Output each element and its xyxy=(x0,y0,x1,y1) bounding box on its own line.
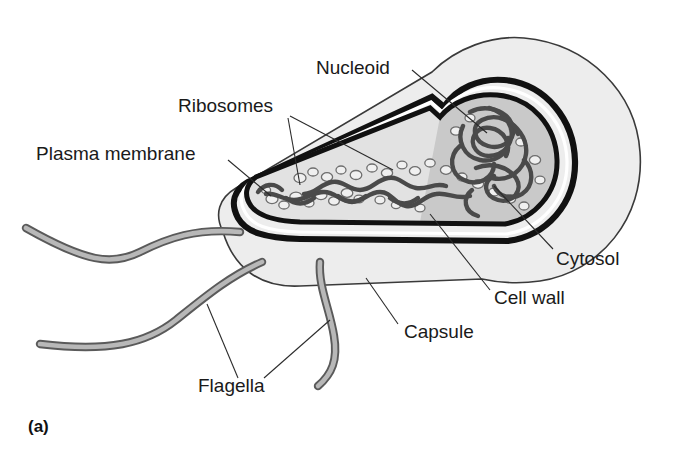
label-flagella: Flagella xyxy=(198,375,265,396)
label-nucleoid: Nucleoid xyxy=(316,57,390,78)
figure-prokaryotic-cell: Nucleoid Ribosomes Plasma membrane Cytos… xyxy=(0,0,689,455)
leader-capsule xyxy=(366,278,398,324)
label-capsule: Capsule xyxy=(404,321,474,342)
label-plasma-membrane: Plasma membrane xyxy=(36,143,195,164)
label-ribosomes: Ribosomes xyxy=(178,95,273,116)
label-cytosol: Cytosol xyxy=(556,248,619,269)
leader-flagella-a xyxy=(207,304,238,378)
label-cell-wall: Cell wall xyxy=(494,287,565,308)
panel-label: (a) xyxy=(28,417,49,436)
leader-flagella-b xyxy=(264,320,330,378)
